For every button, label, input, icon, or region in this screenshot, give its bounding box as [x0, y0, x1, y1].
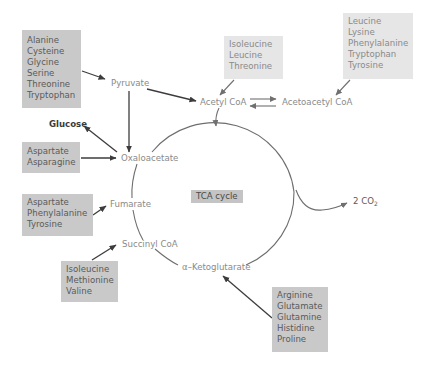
label-pyruvate: Pyruvate [111, 78, 149, 89]
amino-acid: Phenylalanine [27, 208, 88, 219]
amino-acid: Aspartate [27, 146, 75, 157]
co2-text: 2 CO [353, 196, 374, 206]
label-succinyl-coa: Succinyl CoA [122, 239, 178, 250]
arrow-box-to-pyruvate [82, 71, 105, 79]
amino-acid: Lysine [348, 27, 408, 38]
co2-subscript: 2 [374, 200, 378, 207]
amino-acid: Methionine [66, 275, 113, 286]
group-to-fumarate: Aspartate Phenylalanine Tyrosine [22, 194, 93, 236]
amino-acid: Tryptophan [348, 49, 408, 60]
group-to-pyruvate: Alanine Cysteine Glycine Serine Threonin… [22, 30, 81, 108]
label-acetyl-coa: Acetyl CoA [200, 97, 246, 108]
amino-acid: Isoleucine [229, 39, 278, 50]
amino-acid: Valine [66, 286, 113, 297]
arrow-box-to-succinylcoa [92, 245, 116, 260]
amino-acid: Proline [277, 334, 323, 345]
group-to-acetyl-coa: Isoleucine Leucine Threonine [224, 36, 283, 79]
group-to-acetoacetyl-coa: Leucine Lysine Phenylalanine Tryptophan … [343, 13, 413, 79]
amino-acid: Serine [27, 68, 76, 79]
arrow-box-to-acetylcoa [220, 80, 234, 95]
arrow-box-to-alphaketoglutarate [223, 276, 272, 318]
amino-acid: Threonine [27, 79, 76, 90]
amino-acid: Arginine [277, 290, 323, 301]
co2-arrow [296, 190, 347, 210]
amino-acid: Histidine [277, 323, 323, 334]
label-fumarate: Fumarate [110, 199, 151, 210]
amino-acid: Leucine [348, 16, 408, 27]
label-oxaloacetate: Oxaloacetate [121, 153, 178, 164]
amino-acid: Phenylalanine [348, 38, 408, 49]
amino-acid: Glutamate [277, 301, 323, 312]
amino-acid: Tyrosine [348, 60, 408, 71]
label-co2: 2 CO2 [353, 196, 378, 209]
amino-acid: Tryptophan [27, 90, 76, 101]
amino-acid: Cysteine [27, 46, 76, 57]
arrow-oxaloacetate-to-glucose [84, 126, 117, 152]
arrow-box-to-fumarate [93, 206, 106, 215]
amino-acid: Threonine [229, 61, 278, 72]
label-glucose: Glucose [49, 119, 87, 130]
label-alpha-ketoglutarate: α–Ketoglutarate [182, 262, 250, 273]
amino-acid: Aspartate [27, 197, 88, 208]
group-to-alpha-ketoglutarate: Arginine Glutamate Glutamine Histidine P… [272, 287, 328, 352]
arrow-pyruvate-to-acetylcoa [147, 89, 196, 101]
tca-cycle-label: TCA cycle [191, 190, 243, 203]
label-acetoacetyl-coa: Acetoacetyl CoA [282, 97, 352, 108]
amino-acid: Glutamine [277, 312, 323, 323]
amino-acid: Asparagine [27, 157, 75, 168]
arrow-acetylcoa-into-cycle [216, 108, 219, 126]
group-to-oxaloacetate: Aspartate Asparagine [22, 142, 80, 173]
amino-acid: Glycine [27, 57, 76, 68]
amino-acid: Alanine [27, 35, 76, 46]
amino-acid: Leucine [229, 50, 278, 61]
amino-acid: Tyrosine [27, 219, 88, 230]
group-to-succinyl-coa: Isoleucine Methionine Valine [61, 261, 118, 302]
amino-acid: Isoleucine [66, 264, 113, 275]
arrow-box-to-acetoacetylcoa [336, 80, 350, 95]
